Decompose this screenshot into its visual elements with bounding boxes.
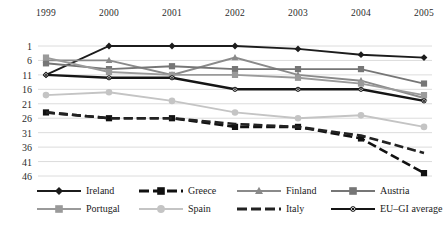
y-axis-label-21: 21 xyxy=(22,98,32,109)
legend-item-eu-gi-average[interactable]: EU–GI average xyxy=(330,202,442,216)
x-axis-label-2000: 2000 xyxy=(89,8,129,18)
series-marker-spain-2002 xyxy=(232,109,239,116)
series-marker-portugal-2004 xyxy=(358,80,364,86)
plot-svg xyxy=(38,40,432,182)
x-axis-label-2002: 2002 xyxy=(215,8,255,18)
legend-marker xyxy=(55,187,63,195)
legend-swatch-portugal xyxy=(36,202,82,216)
series-marker-greece-2005 xyxy=(421,170,427,176)
legend-label: Ireland xyxy=(86,186,114,196)
x-axis-label-2003: 2003 xyxy=(278,8,318,18)
legend-swatch-greece xyxy=(138,184,184,198)
y-axis-label-16: 16 xyxy=(22,84,32,95)
legend-item-ireland[interactable]: Ireland xyxy=(36,184,114,198)
legend-label: Italy xyxy=(286,204,304,214)
legend-label: Spain xyxy=(188,204,211,214)
legend-item-spain[interactable]: Spain xyxy=(138,202,211,216)
legend-label: EU–GI average xyxy=(380,204,442,214)
y-axis-label-1: 1 xyxy=(27,41,32,52)
series-marker-austria-2003 xyxy=(295,66,301,72)
y-axis-label-46: 46 xyxy=(22,171,32,182)
legend-row-2: PortugalSpainItalyEU–GI average xyxy=(0,202,438,221)
series-marker-ireland-2001 xyxy=(169,43,176,50)
legend-item-greece[interactable]: Greece xyxy=(138,184,216,198)
series-marker-spain-2004 xyxy=(358,112,365,119)
legend-marker xyxy=(157,205,165,213)
x-axis: 1999200020012002200320042005 xyxy=(0,8,438,26)
legend-swatch-spain xyxy=(138,202,184,216)
legend-label: Portugal xyxy=(86,204,120,214)
legend-swatch-ireland xyxy=(36,184,82,198)
series-marker-spain-1999 xyxy=(43,92,50,99)
series-marker-spain-2000 xyxy=(106,89,113,96)
series-marker-ireland-2004 xyxy=(358,51,365,58)
chart-legend: IrelandGreeceFinlandAustria PortugalSpai… xyxy=(0,184,438,226)
series-line-greece xyxy=(46,112,424,173)
series-marker-portugal-2002 xyxy=(232,72,238,78)
legend-item-austria[interactable]: Austria xyxy=(330,184,409,198)
series-marker-portugal-1999 xyxy=(43,54,49,60)
legend-marker xyxy=(55,205,63,213)
series-marker-spain-2005 xyxy=(421,124,428,131)
y-axis-label-26: 26 xyxy=(22,113,32,124)
series-marker-austria-2004 xyxy=(358,66,364,72)
series-marker-spain-2001 xyxy=(169,98,176,105)
legend-marker xyxy=(349,187,357,195)
series-marker-portugal-2005 xyxy=(421,92,427,98)
legend-label: Austria xyxy=(380,186,409,196)
legend-swatch-eu-gi-average xyxy=(330,202,376,216)
series-marker-ireland-2002 xyxy=(232,43,239,50)
series-marker-ireland-2005 xyxy=(421,54,428,61)
legend-label: Greece xyxy=(188,186,216,196)
plot-area xyxy=(38,40,432,182)
x-axis-label-2005: 2005 xyxy=(404,8,444,18)
legend-swatch-italy xyxy=(236,202,282,216)
y-axis-label-36: 36 xyxy=(22,142,32,153)
x-axis-label-2004: 2004 xyxy=(341,8,381,18)
legend-label: Finland xyxy=(286,186,317,196)
series-marker-portugal-2000 xyxy=(106,69,112,75)
x-axis-label-2001: 2001 xyxy=(152,8,192,18)
series-marker-austria-2001 xyxy=(169,63,175,69)
series-marker-ireland-2003 xyxy=(295,45,302,52)
legend-marker xyxy=(157,187,165,195)
legend-item-finland[interactable]: Finland xyxy=(236,184,317,198)
series-marker-spain-2003 xyxy=(295,115,302,122)
y-axis-label-41: 41 xyxy=(22,156,32,167)
legend-item-portugal[interactable]: Portugal xyxy=(36,202,120,216)
y-axis-label-11: 11 xyxy=(22,69,32,80)
series-marker-austria-1999 xyxy=(43,60,49,66)
legend-swatch-austria xyxy=(330,184,376,198)
legend-item-italy[interactable]: Italy xyxy=(236,202,304,216)
y-axis-label-31: 31 xyxy=(22,127,32,138)
legend-row-1: IrelandGreeceFinlandAustria xyxy=(0,184,438,203)
series-marker-portugal-2003 xyxy=(295,75,301,81)
series-marker-finland-2002 xyxy=(232,54,239,60)
series-marker-ireland-2000 xyxy=(106,43,113,50)
series-marker-austria-2005 xyxy=(421,80,427,86)
legend-swatch-finland xyxy=(236,184,282,198)
y-axis-label-6: 6 xyxy=(27,55,32,66)
series-marker-austria-2002 xyxy=(232,66,238,72)
